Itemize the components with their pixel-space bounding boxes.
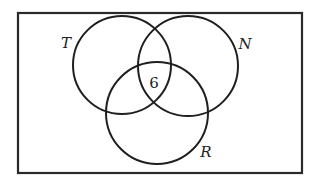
set-t-circle: [73, 16, 171, 114]
venn-diagram: T N R 6: [0, 0, 319, 183]
triple-intersection-value: 6: [149, 74, 159, 92]
set-t-label: T: [61, 34, 72, 52]
set-n-circle: [138, 16, 238, 116]
set-r-label: R: [199, 143, 211, 161]
set-n-label: N: [237, 35, 252, 53]
